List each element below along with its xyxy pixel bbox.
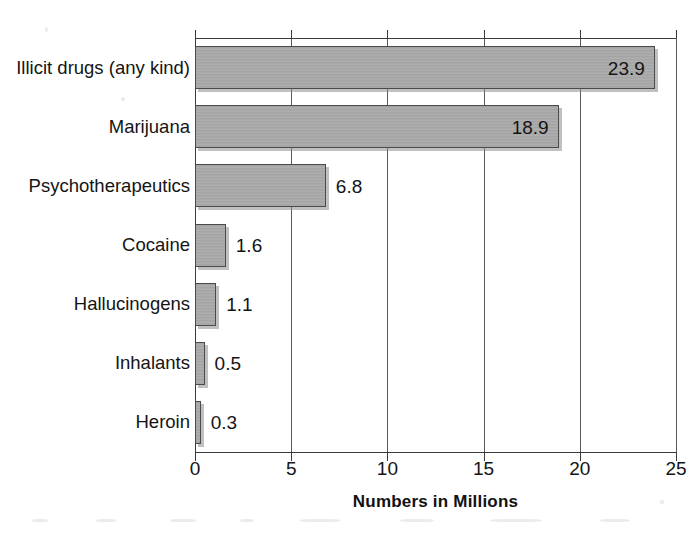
x-tick-mark-top-20 [580,30,581,38]
bar [195,164,326,207]
gridline-15 [484,38,485,452]
x-tick-label-20: 20 [550,458,610,480]
bar: 23.9 [195,46,655,89]
gridline-20 [580,38,581,452]
bar-value-label: 0.5 [215,353,241,374]
bar-value-label: 1.6 [236,235,262,256]
x-tick-label-15: 15 [454,458,514,480]
bar-value-label: 1.1 [226,294,252,315]
x-axis-title: Numbers in Millions [195,492,676,512]
category-label: Hallucinogens [74,293,190,315]
bar-chart: Illicit drugs (any kind)23.9Marijuana18.… [0,0,700,535]
category-label: Psychotherapeutics [29,175,190,197]
scan-speckle [240,519,254,522]
bar [195,283,216,326]
category-label: Cocaine [122,234,190,256]
scan-speckle [45,27,48,32]
scan-speckle [96,519,116,522]
bar: 18.9 [195,105,559,148]
x-tick-mark-top-5 [291,30,292,38]
plot-top-border [195,38,676,39]
scan-speckle [121,97,125,101]
bar [195,401,201,444]
bar [195,342,205,385]
category-label: Illicit drugs (any kind) [16,57,190,79]
scan-speckle [300,519,340,522]
x-tick-mark-top-25 [676,30,677,38]
gridline-5 [291,38,292,452]
x-tick-label-5: 5 [261,458,321,480]
bar-value-label: 6.8 [336,175,362,196]
x-tick-mark-top-10 [387,30,388,38]
bar-value-label: 18.9 [512,116,549,137]
category-label: Marijuana [109,116,190,138]
gridline-10 [387,38,388,452]
x-tick-mark-top-15 [484,30,485,38]
scan-speckle [490,519,542,522]
gridline-25 [676,38,677,452]
category-label: Inhalants [115,352,190,374]
category-label: Heroin [136,411,191,433]
scan-speckle [400,519,434,522]
scan-speckle [170,519,196,522]
scan-speckle [32,519,48,522]
x-tick-mark-top-0 [195,30,196,38]
x-axis-line [195,452,676,453]
bar [195,224,226,267]
x-tick-label-25: 25 [646,458,700,480]
bar-value-label: 0.3 [211,412,237,433]
x-tick-label-10: 10 [357,458,417,480]
bar-value-label: 23.9 [608,57,645,78]
scan-speckle [600,519,630,522]
x-tick-label-0: 0 [165,458,225,480]
